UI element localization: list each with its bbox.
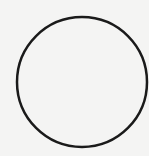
- circle-shape: [17, 17, 147, 147]
- drawing-canvas: [0, 0, 149, 156]
